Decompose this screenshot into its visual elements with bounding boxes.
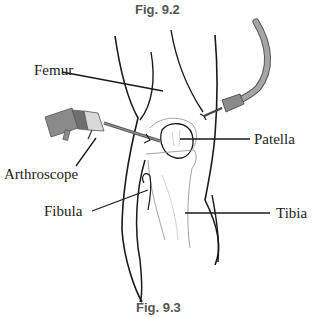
femur-leader xyxy=(62,72,163,91)
label-arthroscope: Arthroscope xyxy=(4,167,78,182)
knee-illustration xyxy=(0,0,322,318)
arthroscope-instrument xyxy=(45,108,160,143)
label-fibula: Fibula xyxy=(44,204,82,219)
label-patella: Patella xyxy=(254,132,295,147)
femur-inner-left xyxy=(140,52,153,120)
label-tibia: Tibia xyxy=(276,206,307,221)
label-femur: Femur xyxy=(34,63,73,78)
irrigation-tube xyxy=(200,22,268,120)
leg-outline-left xyxy=(115,36,142,302)
tibia-shaft-left xyxy=(148,160,165,240)
leg-outline-right xyxy=(205,35,219,265)
knee-arthroscopy-figure: Fig. 9.2 xyxy=(0,0,322,318)
patella-shape xyxy=(161,124,193,159)
arthroscope-leader xyxy=(76,138,96,166)
fibula-leader xyxy=(92,190,148,211)
leg-outline-center xyxy=(171,30,203,112)
caption-bottom: Fig. 9.3 xyxy=(136,300,181,315)
